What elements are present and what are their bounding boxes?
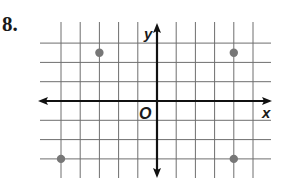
origin-label: O <box>139 105 152 122</box>
x-axis-label: x <box>261 104 271 121</box>
plotted-point <box>95 49 103 57</box>
plotted-point <box>230 155 238 163</box>
plotted-point <box>57 155 65 163</box>
coordinate-grid: y x O <box>0 0 283 187</box>
y-axis-label: y <box>143 25 153 42</box>
plotted-point <box>230 49 238 57</box>
axes <box>38 23 272 178</box>
